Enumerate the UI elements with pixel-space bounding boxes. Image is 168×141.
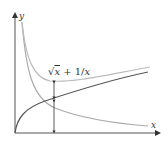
y-axis-label: y <box>18 11 25 21</box>
x-axis-label: x <box>151 120 156 130</box>
annotation-label: √x + 1/x <box>48 66 90 77</box>
chart: y x √x + 1/x <box>0 0 168 141</box>
svg-text:√x + 1/x: √x + 1/x <box>48 66 90 77</box>
